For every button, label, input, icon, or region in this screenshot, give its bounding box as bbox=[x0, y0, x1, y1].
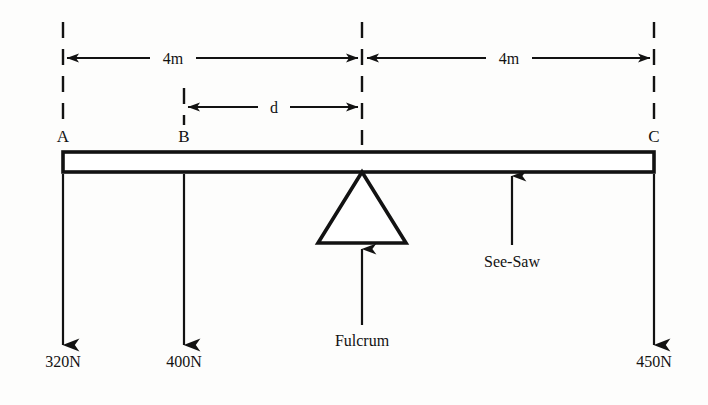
dimension-right-span: 4m bbox=[367, 47, 650, 69]
fulcrum-callout: Fulcrum bbox=[335, 249, 390, 349]
station-lines bbox=[63, 22, 654, 145]
fulcrum-triangle bbox=[318, 172, 406, 243]
point-label-a: A bbox=[57, 127, 70, 146]
seesaw-callout-label: See-Saw bbox=[484, 253, 540, 270]
force-arrow-a: 320N bbox=[45, 174, 81, 370]
dimension-distance-d: d bbox=[188, 96, 358, 118]
force-label-c: 450N bbox=[636, 353, 672, 370]
force-label-a: 320N bbox=[45, 353, 81, 370]
seesaw-diagram: 4m 4m d A B C Fulcrum See-Saw bbox=[0, 0, 708, 405]
diagram-canvas: 4m 4m d A B C Fulcrum See-Saw bbox=[0, 0, 708, 405]
point-label-c: C bbox=[648, 127, 659, 146]
dimension-right-span-label: 4m bbox=[499, 50, 520, 67]
force-label-b: 400N bbox=[166, 353, 202, 370]
dimension-distance-d-label: d bbox=[270, 99, 278, 116]
force-arrow-c: 450N bbox=[636, 174, 672, 370]
dimension-left-span-label: 4m bbox=[163, 50, 184, 67]
point-label-b: B bbox=[178, 127, 189, 146]
dimension-left-span: 4m bbox=[67, 47, 358, 69]
fulcrum-callout-label: Fulcrum bbox=[335, 332, 390, 349]
seesaw-beam bbox=[63, 152, 654, 172]
seesaw-callout: See-Saw bbox=[484, 176, 540, 270]
force-arrow-b: 400N bbox=[166, 174, 202, 370]
